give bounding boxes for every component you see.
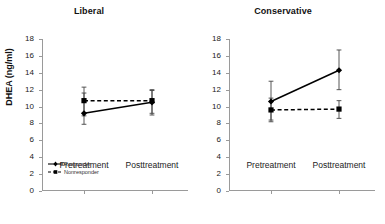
panel-title-liberal: Liberal [14, 6, 164, 16]
panel-liberal: Liberal DHEA (ng/ml) 024681012141618 Pre… [0, 0, 192, 224]
legend-item-responder: Responder [48, 160, 99, 168]
x-tick-label: Posttreatment [313, 160, 366, 170]
x-tick [84, 191, 85, 194]
y-tick-label: 8 [30, 119, 34, 127]
y-tick-label: 2 [217, 170, 221, 178]
y-tick-label: 0 [217, 187, 221, 195]
legend: Responder Nonresponder [48, 160, 99, 176]
y-tick-label: 14 [212, 69, 221, 77]
x-tick-label: Pretreatment [246, 160, 295, 170]
y-axis-label: DHEA (ng/ml) [4, 22, 14, 132]
x-tick [339, 191, 340, 194]
legend-item-nonresponder: Nonresponder [48, 168, 99, 176]
y-tick-label: 2 [30, 170, 34, 178]
legend-label-responder: Responder [64, 160, 91, 168]
y-tick: 0 [39, 191, 42, 192]
y-tick-label: 0 [30, 187, 34, 195]
y-tick-label: 10 [212, 103, 221, 111]
y-tick-label: 18 [25, 35, 34, 43]
y-tick-label: 6 [30, 136, 34, 144]
x-tick-label: Posttreatment [126, 160, 179, 170]
y-tick: 0 [226, 191, 229, 192]
y-tick-label: 8 [217, 119, 221, 127]
x-tick [152, 191, 153, 194]
figure-two-panel-line-chart: Liberal DHEA (ng/ml) 024681012141618 Pre… [0, 0, 385, 224]
y-tick-label: 14 [25, 69, 34, 77]
y-tick-label: 12 [25, 86, 34, 94]
panel-conservative: Conservative 024681012141618 Pretreatmen… [192, 0, 385, 224]
panel-title-conservative: Conservative [208, 6, 358, 16]
x-tick [271, 191, 272, 194]
y-tick-label: 4 [217, 153, 221, 161]
y-tick-label: 10 [25, 103, 34, 111]
y-tick-label: 4 [30, 153, 34, 161]
legend-key-responder-icon [48, 160, 63, 168]
y-tick-label: 16 [25, 52, 34, 60]
legend-key-nonresponder-icon [48, 168, 63, 176]
y-tick-label: 16 [212, 52, 221, 60]
y-tick-label: 18 [212, 35, 221, 43]
y-tick-label: 12 [212, 86, 221, 94]
legend-label-nonresponder: Nonresponder [64, 168, 99, 176]
y-tick-label: 6 [217, 136, 221, 144]
